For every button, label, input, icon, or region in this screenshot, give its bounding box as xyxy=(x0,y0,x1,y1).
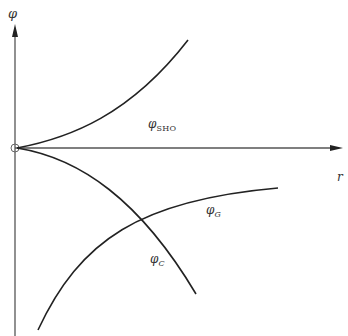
y-axis-arrow-icon xyxy=(12,24,18,37)
potential-diagram: φ r φSHO φG φC xyxy=(0,0,348,336)
curve-phi-c xyxy=(17,148,196,294)
label-phi-g: φG xyxy=(206,203,221,219)
label-phi-sho-sub: SHO xyxy=(156,124,176,133)
x-axis-label: r xyxy=(337,170,343,184)
label-phi-c: φC xyxy=(150,252,165,268)
label-phi-sho: φSHO xyxy=(148,117,176,133)
y-axis-label: φ xyxy=(8,6,17,21)
label-phi-g-sub: G xyxy=(214,210,221,219)
x-axis-arrow-icon xyxy=(330,145,343,151)
plot-canvas xyxy=(0,0,348,336)
label-phi-c-sub: C xyxy=(158,259,164,268)
